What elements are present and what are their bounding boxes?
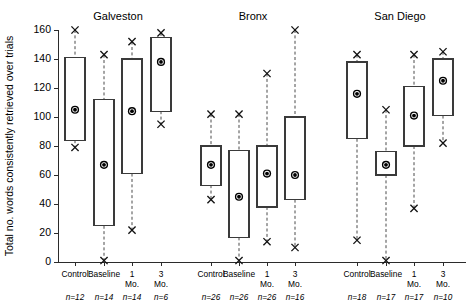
sample-size-galveston-baseline: n=14	[95, 293, 114, 302]
y-tick-label-140: 140	[33, 52, 51, 64]
y-tick-label-120: 120	[33, 81, 51, 93]
x-label-bronx-3-mo-line2: Mo.	[288, 279, 302, 289]
box-san-diego-3-mo	[433, 59, 453, 116]
mean-marker-bronx-control	[207, 161, 215, 169]
x-label-galveston-baseline: Baseline	[88, 269, 120, 279]
group-title-san-diego: San Diego	[374, 10, 425, 22]
mean-marker-galveston-control	[71, 106, 79, 114]
x-label-galveston-3-mo-line2: Mo.	[154, 279, 168, 289]
box-galveston-3-mo	[151, 37, 171, 111]
sample-size-bronx-1-mo: n=26	[258, 293, 277, 302]
y-axis-title: Total no. words consistently retrieved o…	[3, 36, 15, 257]
mean-marker-bronx-baseline	[235, 193, 243, 201]
x-label-san-diego-3-mo-line1: 3	[441, 269, 446, 279]
boxplot-svg: 020406080100120140160Total no. words con…	[0, 0, 476, 302]
box-bronx-3-mo	[285, 117, 305, 200]
mean-marker-galveston-3-mo	[157, 58, 165, 66]
sample-size-bronx-3-mo: n=16	[286, 293, 305, 302]
y-tick-label-60: 60	[39, 168, 51, 180]
x-label-galveston-1-mo-line1: 1	[130, 269, 135, 279]
sample-size-san-diego-baseline: n=17	[377, 293, 396, 302]
y-tick-label-40: 40	[39, 197, 51, 209]
box-galveston-control	[65, 58, 85, 141]
sample-size-galveston-1-mo: n=14	[123, 293, 142, 302]
x-label-san-diego-1-mo-line2: Mo.	[407, 279, 421, 289]
x-label-bronx-1-mo-line1: 1	[265, 269, 270, 279]
x-label-bronx-3-mo-line1: 3	[293, 269, 298, 279]
x-label-galveston-3-mo-line1: 3	[159, 269, 164, 279]
x-label-bronx-control: Control	[198, 269, 225, 279]
mean-marker-san-diego-3-mo	[439, 77, 447, 85]
y-tick-label-100: 100	[33, 110, 51, 122]
mean-marker-san-diego-baseline	[382, 161, 390, 169]
mean-marker-bronx-1-mo	[263, 169, 271, 177]
mean-marker-galveston-1-mo	[128, 107, 136, 115]
extreme-low-marker-galveston-control	[71, 144, 78, 151]
boxplot-figure: 020406080100120140160Total no. words con…	[0, 0, 476, 302]
mean-marker-san-diego-1-mo	[410, 111, 418, 119]
sample-size-galveston-3-mo: n=6	[154, 293, 168, 302]
box-galveston-1-mo	[122, 59, 142, 174]
x-label-bronx-baseline: Baseline	[223, 269, 255, 279]
x-label-san-diego-3-mo-line2: Mo.	[436, 279, 450, 289]
group-title-galveston: Galveston	[93, 10, 143, 22]
sample-size-bronx-baseline: n=26	[230, 293, 249, 302]
group-title-bronx: Bronx	[239, 10, 268, 22]
x-label-bronx-1-mo-line2: Mo.	[260, 279, 274, 289]
x-label-san-diego-control: Control	[344, 269, 371, 279]
y-tick-label-80: 80	[39, 139, 51, 151]
sample-size-san-diego-3-mo: n=10	[434, 293, 453, 302]
extreme-low-marker-bronx-1-mo	[263, 238, 270, 245]
y-tick-label-0: 0	[45, 255, 51, 267]
extreme-low-marker-galveston-3-mo	[157, 121, 164, 128]
y-tick-label-20: 20	[39, 226, 51, 238]
sample-size-san-diego-1-mo: n=17	[405, 293, 424, 302]
sample-size-galveston-control: n=12	[66, 293, 85, 302]
y-tick-label-160: 160	[33, 23, 51, 35]
x-label-galveston-control: Control	[62, 269, 89, 279]
mean-marker-galveston-baseline	[100, 161, 108, 169]
mean-marker-san-diego-control	[353, 90, 361, 98]
mean-marker-bronx-3-mo	[291, 171, 299, 179]
sample-size-san-diego-control: n=18	[348, 293, 367, 302]
x-label-galveston-1-mo-line2: Mo.	[125, 279, 139, 289]
extreme-low-marker-san-diego-3-mo	[439, 140, 446, 147]
sample-size-bronx-control: n=26	[202, 293, 221, 302]
box-san-diego-control	[347, 62, 367, 139]
x-label-san-diego-baseline: Baseline	[370, 269, 402, 279]
x-label-san-diego-1-mo-line1: 1	[412, 269, 417, 279]
